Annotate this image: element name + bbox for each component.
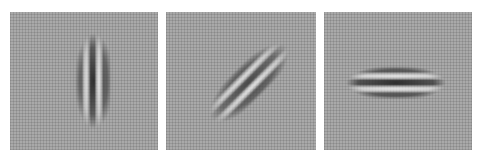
gabor-filter-horizontal	[344, 53, 448, 113]
gabor-filter-diagonal	[189, 23, 309, 143]
panel-gabor-vertical	[10, 12, 158, 150]
panel-gabor-diagonal	[166, 12, 316, 150]
panel-gabor-horizontal	[324, 12, 472, 150]
gabor-filter-vertical	[64, 31, 124, 131]
